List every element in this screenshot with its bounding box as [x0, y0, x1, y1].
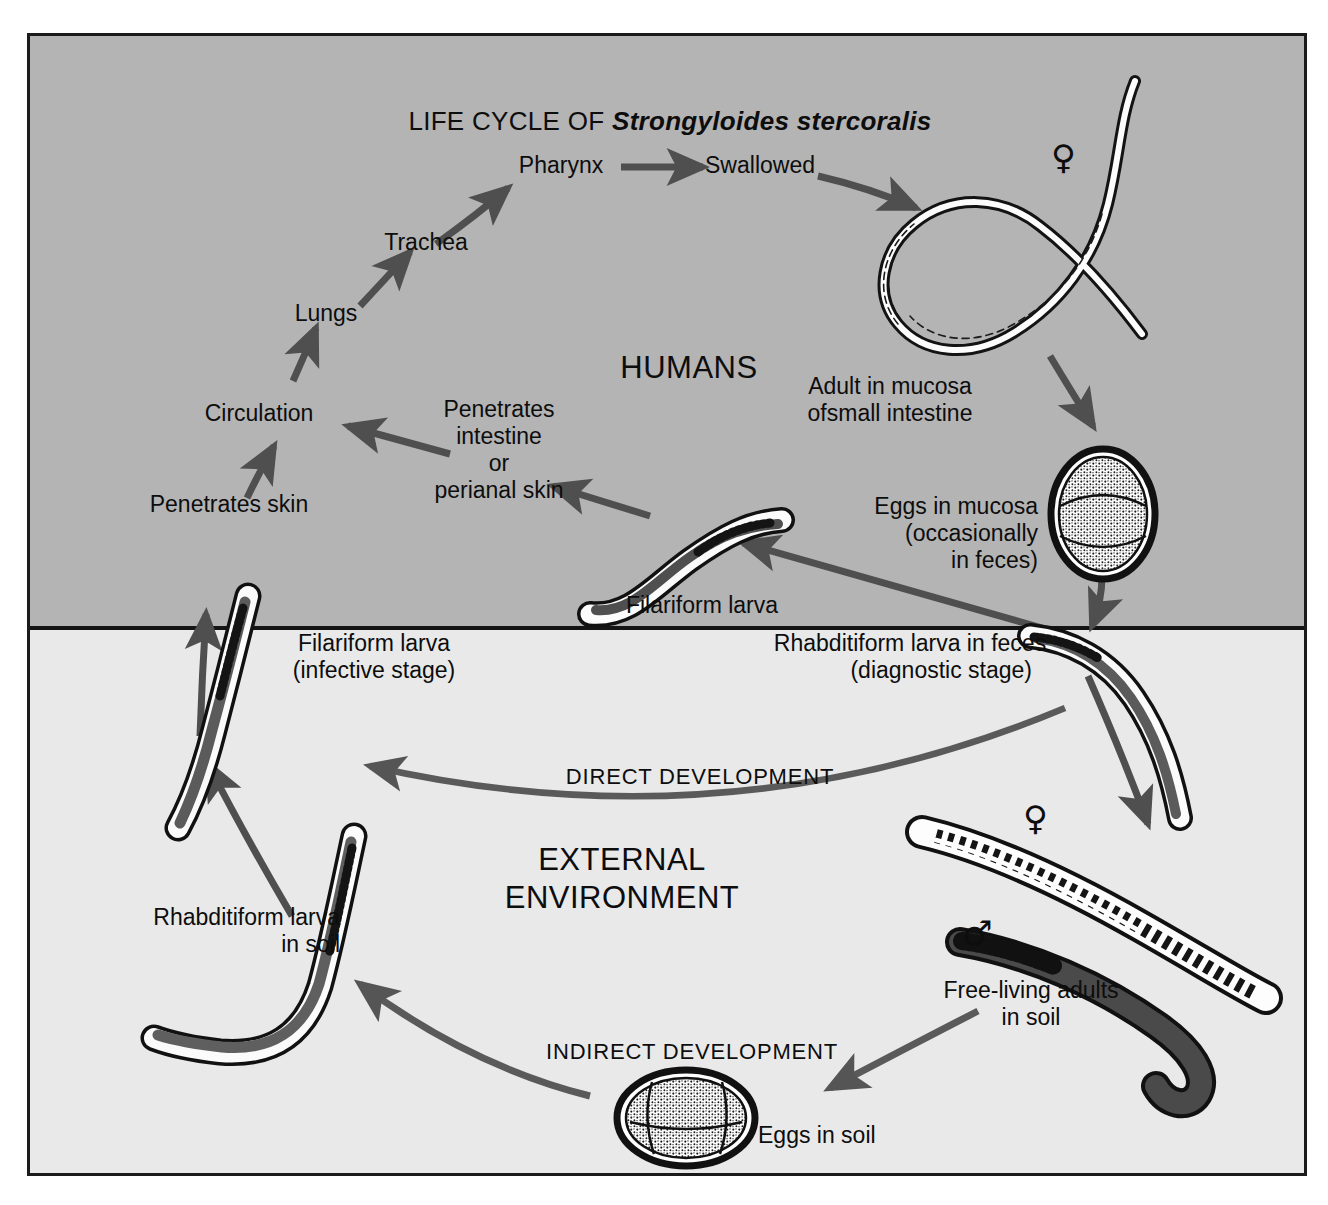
label-swallowed: Swallowed [705, 152, 815, 179]
habitat-divider-line [30, 626, 1304, 630]
diagram-title: LIFE CYCLE OF Strongyloides stercoralis [408, 108, 931, 135]
label-pharynx: Pharynx [519, 152, 603, 179]
label-free-living-adults-line2: in soil [1002, 1004, 1061, 1031]
label-eggs-mucosa-line1: Eggs in mucosa [874, 493, 1038, 520]
label-zone-humans: HUMANS [620, 349, 757, 387]
label-penetrates-intestine-line1: Penetrates [443, 396, 554, 423]
male-symbol-free-living: ♂ [962, 916, 992, 950]
label-zone-external-line1: EXTERNAL [538, 841, 706, 879]
label-penetrates-intestine-line3: or [489, 450, 509, 477]
diagram-frame: LIFE CYCLE OF Strongyloides stercoralis … [27, 33, 1307, 1176]
title-species-name: Strongyloides stercoralis [612, 106, 932, 136]
label-rhabditiform-feces-line2: (diagnostic stage) [850, 657, 1032, 684]
female-symbol-free-living: ♀ [1023, 801, 1048, 835]
label-trachea: Trachea [384, 229, 468, 256]
label-penetrates-intestine-line2: intestine [456, 423, 542, 450]
title-prefix: LIFE CYCLE OF [408, 106, 612, 136]
label-rhabditiform-soil-line2: in soil [281, 931, 340, 958]
label-circulation: Circulation [205, 400, 314, 427]
label-filariform-infective-line2: (infective stage) [293, 657, 455, 684]
label-free-living-adults-line1: Free-living adults [943, 977, 1118, 1004]
label-filariform-infective-line1: Filariform larva [298, 630, 450, 657]
female-symbol-adult-mucosa: ♀ [1051, 140, 1076, 174]
label-eggs-mucosa-line2: (occasionally [905, 520, 1038, 547]
label-zone-external-line2: ENVIRONMENT [505, 879, 740, 917]
label-filariform-larva-humans: Filariform larva [626, 592, 778, 619]
label-adult-mucosa-line2: ofsmall intestine [808, 400, 973, 427]
label-penetrates-skin: Penetrates skin [150, 491, 309, 518]
label-adult-mucosa-line1: Adult in mucosa [808, 373, 972, 400]
diagram-page: LIFE CYCLE OF Strongyloides stercoralis … [0, 0, 1328, 1205]
label-rhabditiform-feces-line1: Rhabditiform larva in feces [774, 630, 1046, 657]
label-indirect-development: INDIRECT DEVELOPMENT [546, 1038, 838, 1065]
label-penetrates-intestine-line4: perianal skin [434, 477, 563, 504]
label-direct-development: DIRECT DEVELOPMENT [566, 763, 834, 790]
label-rhabditiform-soil-line1: Rhabditiform larva [153, 904, 340, 931]
label-eggs-in-soil: Eggs in soil [758, 1122, 876, 1149]
label-eggs-mucosa-line3: in feces) [951, 547, 1038, 574]
label-lungs: Lungs [295, 300, 358, 327]
